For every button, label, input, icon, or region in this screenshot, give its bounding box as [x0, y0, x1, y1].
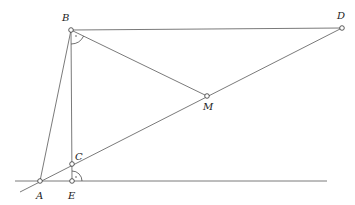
segment-ab	[40, 30, 71, 181]
segment-bm	[71, 30, 207, 96]
label-m: M	[202, 101, 214, 112]
segment-bd	[71, 28, 342, 30]
angle-dot-b	[75, 35, 76, 36]
point-c	[70, 162, 75, 167]
segment-be	[71, 30, 72, 181]
label-c: C	[75, 151, 83, 162]
point-b	[69, 28, 74, 33]
point-a	[38, 179, 43, 184]
label-d: D	[336, 10, 345, 21]
point-d	[340, 26, 345, 31]
point-m	[205, 94, 210, 99]
geometry-diagram: A B C D E M	[0, 0, 355, 205]
label-b: B	[61, 12, 69, 23]
line-ad	[20, 28, 342, 192]
label-e: E	[67, 190, 76, 201]
label-a: A	[35, 190, 43, 201]
angle-mark-b	[71, 36, 83, 44]
point-e	[70, 179, 75, 184]
angle-dot-e	[75, 176, 76, 177]
segments	[15, 28, 342, 192]
